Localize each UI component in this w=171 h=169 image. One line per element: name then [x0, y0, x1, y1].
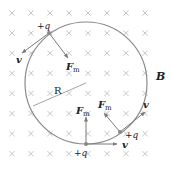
field-cross-icon — [9, 71, 14, 76]
field-cross-icon — [47, 151, 52, 156]
radius-label: R — [54, 85, 62, 96]
force-label-bottom: Fm — [75, 105, 90, 118]
field-cross-icon — [28, 10, 33, 15]
field-cross-icon — [66, 151, 71, 156]
field-cross-icon — [123, 151, 128, 156]
charge-label-top: +q — [37, 21, 51, 31]
velocity-label-top: v — [16, 54, 22, 65]
field-cross-icon — [142, 10, 147, 15]
field-cross-icon — [66, 31, 71, 36]
field-cross-icon — [47, 71, 52, 76]
field-cross-icon — [85, 71, 90, 76]
field-cross-icon — [142, 31, 147, 36]
velocity-arrow-right — [120, 112, 145, 132]
field-cross-icon — [85, 91, 90, 96]
force-arrow-right — [104, 113, 120, 132]
velocity-arrow-top — [22, 33, 49, 53]
field-cross-icon — [28, 91, 33, 96]
field-cross-icon — [47, 91, 52, 96]
field-cross-icon — [28, 151, 33, 156]
force-label-right: Fm — [97, 99, 112, 112]
field-cross-icon — [123, 111, 128, 116]
field-cross-icon — [123, 10, 128, 15]
diagram-canvas: R B +q v Fm +q v Fm +q v Fm — [0, 0, 171, 169]
charge-top: +q v Fm — [16, 21, 80, 74]
field-cross-icon — [9, 31, 14, 36]
charge-dot-right — [118, 130, 122, 134]
field-cross-icon — [104, 31, 109, 36]
charge-dot-bottom — [84, 142, 88, 146]
field-label: B — [155, 70, 165, 83]
field-cross-icon — [104, 131, 109, 136]
field-cross-icon — [142, 131, 147, 136]
field-cross-icon — [66, 111, 71, 116]
field-cross-icon — [104, 51, 109, 56]
velocity-label-bottom: v — [122, 139, 128, 150]
field-cross-icon — [104, 151, 109, 156]
field-cross-icon — [66, 10, 71, 15]
field-cross-icon — [28, 131, 33, 136]
charge-label-right: +q — [125, 130, 139, 140]
field-cross-icon — [9, 51, 14, 56]
field-cross-icon — [104, 71, 109, 76]
field-cross-icon — [47, 10, 52, 15]
field-cross-icon — [123, 51, 128, 56]
field-cross-icon — [47, 51, 52, 56]
charge-dot-top — [47, 31, 51, 35]
velocity-label-right: v — [143, 99, 149, 110]
field-cross-icon — [142, 151, 147, 156]
field-cross-icon — [47, 111, 52, 116]
field-cross-icon — [66, 131, 71, 136]
field-cross-icon — [28, 71, 33, 76]
field-cross-icon — [66, 51, 71, 56]
field-cross-icon — [85, 10, 90, 15]
charge-bottom-right: +q v Fm — [97, 99, 149, 140]
field-cross-icon — [9, 131, 14, 136]
field-cross-icon — [85, 51, 90, 56]
field-cross-icon — [9, 151, 14, 156]
field-cross-icon — [104, 10, 109, 15]
force-arrow-top — [49, 33, 68, 58]
field-cross-icon — [123, 91, 128, 96]
field-cross-icon — [9, 111, 14, 116]
field-cross-icon — [9, 10, 14, 15]
field-cross-icon — [142, 51, 147, 56]
field-cross-icon — [28, 31, 33, 36]
field-cross-icon — [9, 91, 14, 96]
field-cross-icon — [85, 31, 90, 36]
magnetic-field-diagram: R B +q v Fm +q v Fm +q v Fm — [0, 0, 171, 169]
field-cross-icon — [104, 91, 109, 96]
field-cross-icon — [123, 71, 128, 76]
charge-label-bottom: +q — [74, 148, 88, 158]
